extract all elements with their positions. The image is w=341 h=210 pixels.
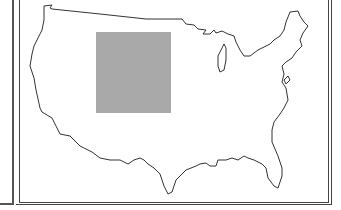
highlighted-region[interactable] (96, 32, 171, 113)
us-map (0, 0, 341, 210)
lake-michigan (218, 44, 226, 72)
chesapeake-bay (284, 76, 290, 84)
